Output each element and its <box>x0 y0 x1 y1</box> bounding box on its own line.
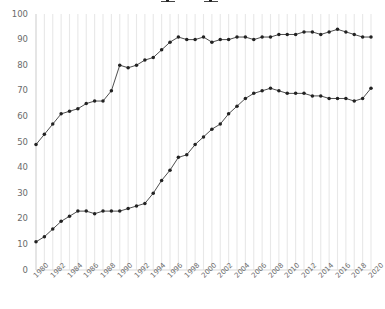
y-tick-90: 90 <box>2 34 28 44</box>
legend-entry-lower <box>204 1 221 2</box>
y-tick-100: 100 <box>2 9 28 19</box>
y-tick-70: 70 <box>2 85 28 95</box>
y-tick-10: 10 <box>2 239 28 249</box>
legend-marker-icon <box>204 1 218 2</box>
y-tick-80: 80 <box>2 60 28 70</box>
legend-entry-upper <box>161 1 178 2</box>
y-tick-20: 20 <box>2 213 28 223</box>
y-tick-40: 40 <box>2 162 28 172</box>
gridlines <box>36 14 371 270</box>
y-tick-0: 0 <box>2 265 28 275</box>
y-tick-50: 50 <box>2 137 28 147</box>
y-tick-60: 60 <box>2 111 28 121</box>
y-tick-30: 30 <box>2 188 28 198</box>
chart-legend <box>0 0 381 7</box>
legend-marker-icon <box>161 1 175 2</box>
